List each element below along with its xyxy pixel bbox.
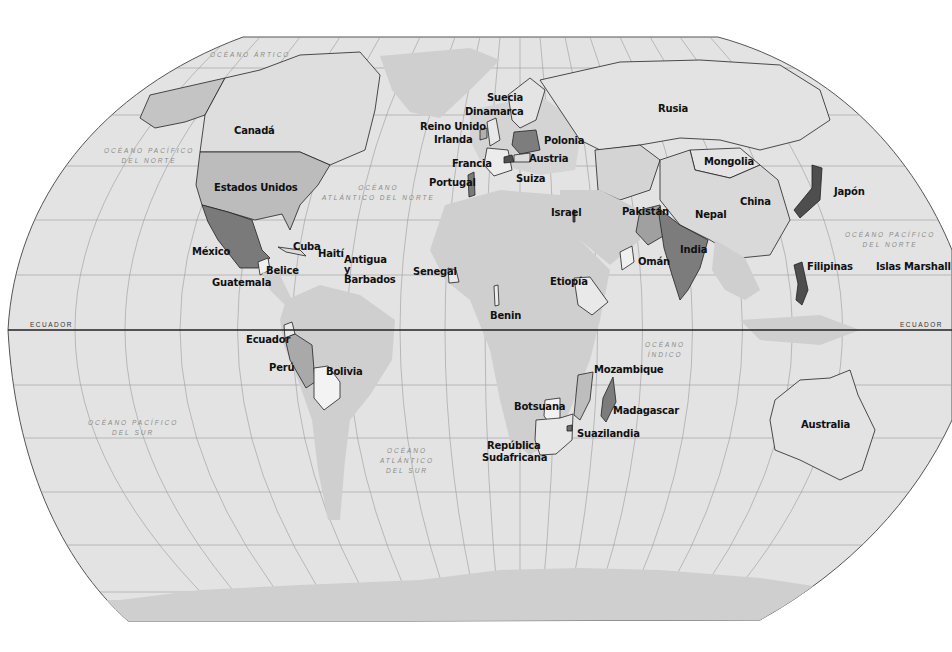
country-label-belice: Belice — [266, 265, 299, 276]
country-label-dinamarca: Dinamarca — [465, 106, 524, 117]
ocean-label-atlantico-norte: OCÉANO ATLÁNTICO DEL NORTE — [322, 183, 435, 203]
ocean-label-line: DEL SUR — [88, 428, 178, 438]
country-label-botsuana: Botsuana — [514, 401, 565, 412]
ocean-label-line: DEL SUR — [380, 466, 434, 476]
country-label-peru: Perú — [269, 362, 294, 373]
ocean-label-line: OCÉANO PACÍFICO — [104, 146, 194, 156]
country-label-cuba: Cuba — [293, 241, 321, 252]
country-label-irlanda: Irlanda — [434, 134, 472, 145]
country-label-suecia: Suecia — [487, 92, 523, 103]
country-label-senegal: Senegal — [413, 266, 457, 277]
country-label-rusia: Rusia — [658, 103, 688, 114]
country-label-canada: Canadá — [234, 125, 275, 136]
country-label-sudafricana: Sudafricana — [482, 452, 547, 463]
ocean-label-line: DEL NORTE — [845, 240, 935, 250]
ocean-label-line: OCÉANO PACÍFICO — [88, 418, 178, 428]
country-label-barbados: Barbados — [344, 274, 396, 285]
country-label-nepal: Nepal — [695, 209, 727, 220]
ocean-label-line: OCÉANO — [645, 340, 685, 350]
ocean-label-line: ATLÁNTICO — [380, 456, 434, 466]
ocean-label-artico: OCÉANO ÁRTICO — [210, 50, 290, 60]
ocean-label-pacifico-norte-e: OCÉANO PACÍFICO DEL NORTE — [845, 230, 935, 250]
country-label-estados-unidos: Estados Unidos — [214, 182, 298, 193]
world-map — [0, 0, 952, 652]
country-label-israel: Israel — [551, 207, 581, 218]
country-label-francia: Francia — [452, 158, 492, 169]
country-label-china: China — [740, 196, 771, 207]
country-label-republica: República — [487, 440, 541, 451]
equator-label-right: ECUADOR — [900, 321, 943, 328]
ocean-label-atlantico-sur: OCÉANO ATLÁNTICO DEL SUR — [380, 446, 434, 476]
equator-label-left: ECUADOR — [30, 321, 73, 328]
country-label-australia: Australia — [801, 419, 850, 430]
country-label-haiti: Haití — [318, 248, 344, 259]
country-label-pakistan: Pakistán — [622, 206, 669, 217]
country-label-benin: Benin — [490, 310, 521, 321]
ocean-label-line: OCÉANO PACÍFICO — [845, 230, 935, 240]
country-label-etiopia: Etiopía — [550, 276, 588, 287]
ocean-label-line: DEL NORTE — [104, 156, 194, 166]
country-label-guatemala: Guatemala — [212, 277, 271, 288]
country-label-india: India — [680, 244, 707, 255]
country-label-antigua: Antigua — [344, 254, 387, 265]
country-label-ecuador: Ecuador — [246, 334, 290, 345]
country-label-reino-unido: Reino Unido — [420, 121, 486, 132]
ocean-label-line: ATLÁNTICO DEL NORTE — [322, 193, 435, 203]
country-label-austria: Austria — [529, 153, 568, 164]
country-label-mexico: México — [192, 246, 230, 257]
ocean-label-line: OCÉANO — [380, 446, 434, 456]
country-label-filipinas: Filipinas — [807, 261, 853, 272]
country-label-islas-marshall: Islas Marshall — [876, 261, 951, 272]
country-label-suazilandia: Suazilandia — [577, 428, 640, 439]
ocean-label-line: OCÉANO — [322, 183, 435, 193]
country-label-japon: Japón — [834, 186, 865, 197]
country-label-mozambique: Mozambique — [594, 364, 663, 375]
country-label-bolivia: Bolivia — [326, 366, 363, 377]
country-label-suiza: Suiza — [516, 173, 545, 184]
ocean-label-pacifico-norte-w: OCÉANO PACÍFICO DEL NORTE — [104, 146, 194, 166]
country-label-madagascar: Madagascar — [613, 405, 679, 416]
country-label-mongolia: Mongolia — [704, 156, 754, 167]
ocean-label-indico: OCÉANO ÍNDICO — [645, 340, 685, 360]
ocean-label-pacifico-sur: OCÉANO PACÍFICO DEL SUR — [88, 418, 178, 438]
ocean-label-line: ÍNDICO — [645, 350, 685, 360]
country-label-oman: Omán — [638, 256, 670, 267]
country-label-polonia: Polonia — [544, 135, 584, 146]
ocean-label-line: OCÉANO ÁRTICO — [210, 51, 290, 58]
country-label-portugal: Portugal — [429, 177, 476, 188]
